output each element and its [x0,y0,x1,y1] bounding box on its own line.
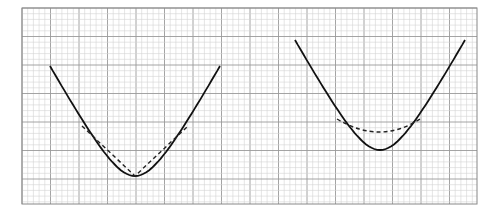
left-solid-curve [50,66,220,176]
curves-layer [50,40,465,176]
graph-paper-grid [22,8,477,204]
graph-paper-figure [0,0,491,216]
